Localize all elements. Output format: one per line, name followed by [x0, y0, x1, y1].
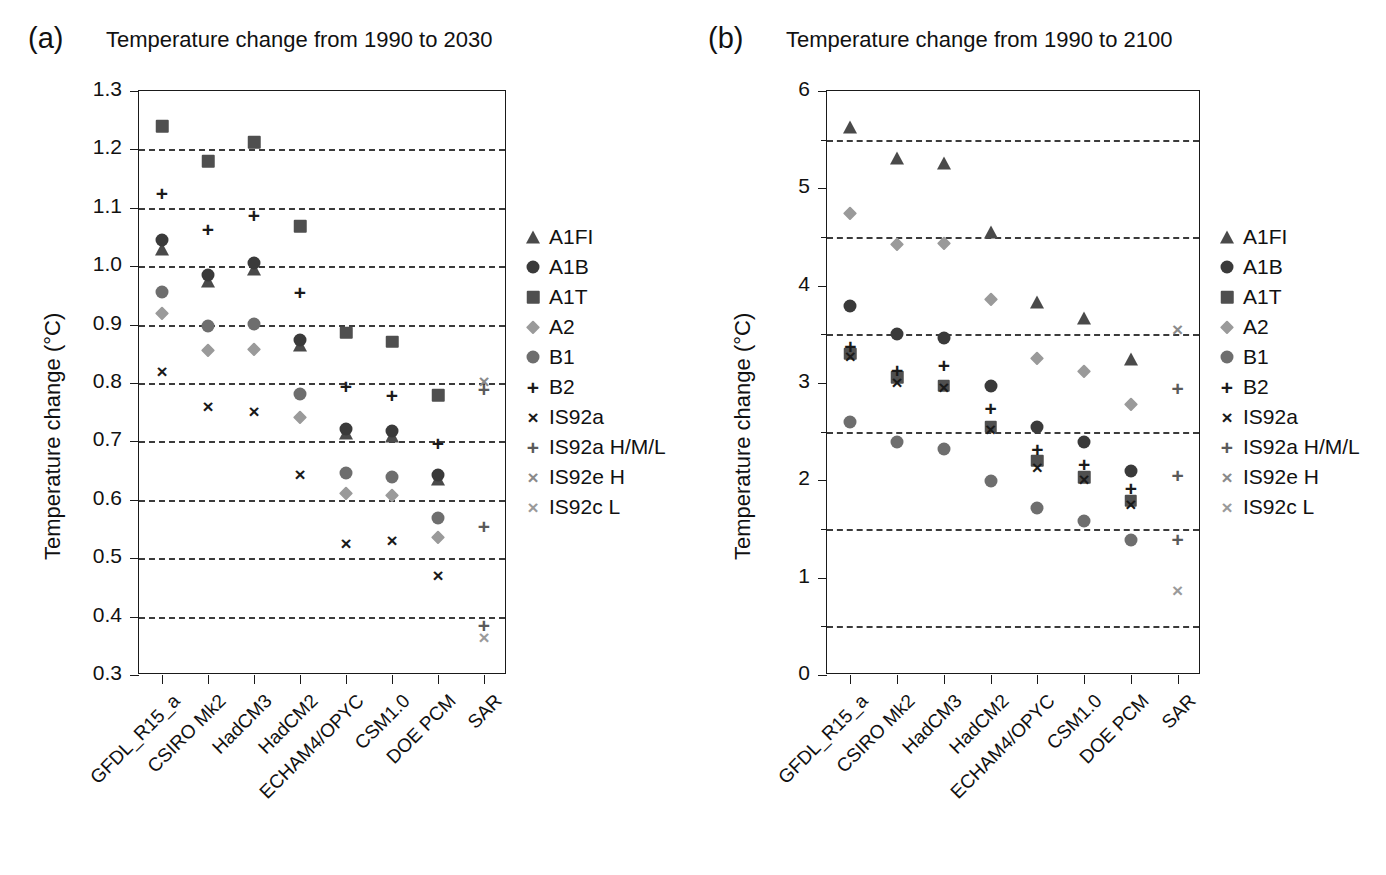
x-axis-tick [1131, 675, 1132, 684]
legend-marker-cross-icon: × [1214, 494, 1240, 520]
marker-square [527, 291, 540, 304]
gridline [139, 383, 505, 385]
marker-diamond [526, 320, 539, 333]
data-point-is92a: × [1121, 494, 1141, 513]
marker-plus: + [523, 437, 543, 458]
y-axis-minor-tick [821, 432, 827, 433]
data-point-a2 [1124, 398, 1137, 411]
legend-marker-circle-icon [1214, 344, 1240, 370]
gridline [827, 140, 1199, 142]
y-axis-tick [818, 578, 827, 579]
data-point-a2 [339, 486, 352, 499]
y-axis-tick [130, 383, 139, 384]
x-axis-tick [392, 675, 393, 684]
y-axis-tick-label: 0.5 [60, 544, 122, 568]
y-axis-tick [818, 188, 827, 189]
data-point-is92c-l: × [1168, 581, 1188, 600]
data-point-a1fi [937, 157, 951, 170]
data-point-a2 [247, 342, 260, 355]
legend-marker-triangle-icon [520, 224, 546, 250]
x-axis-tick [1084, 675, 1085, 684]
data-point-b1 [386, 471, 399, 484]
legend-item-a1b: A1B [520, 252, 666, 282]
y-axis-tick [818, 675, 827, 676]
y-axis-tick-label: 0.4 [60, 603, 122, 627]
gridline [827, 626, 1199, 628]
marker-circle [527, 351, 540, 364]
legend-label: A1T [1243, 285, 1282, 309]
data-point-b1 [891, 436, 904, 449]
y-axis-tick-label: 1.3 [60, 77, 122, 101]
y-axis-tick-label: 0.3 [60, 661, 122, 685]
y-axis-minor-tick [821, 626, 827, 627]
marker-plus: + [523, 377, 543, 398]
gridline [827, 529, 1199, 531]
data-point-is92e-h: × [1168, 320, 1188, 339]
legend-marker-cross-icon: × [1214, 404, 1240, 430]
data-point-b1 [248, 318, 261, 331]
legend-item-is92a: ×IS92a [1214, 402, 1360, 432]
data-point-a1t [386, 335, 399, 348]
data-point-a1b [156, 233, 169, 246]
panel-b-legend: A1FIA1BA1TA2B1+B2×IS92a+IS92a H/M/L×IS92… [1214, 222, 1360, 522]
legend-marker-triangle-icon [1214, 224, 1240, 250]
y-axis-tick [130, 617, 139, 618]
legend-label: IS92a [1243, 405, 1298, 429]
legend-label: B2 [1243, 375, 1269, 399]
legend-marker-plus-icon: + [520, 374, 546, 400]
data-point-is92a: × [428, 566, 448, 585]
data-point-b1 [844, 415, 857, 428]
legend-item-a1b: A1B [1214, 252, 1360, 282]
legend-item-a2: A2 [520, 312, 666, 342]
data-point-a2 [201, 343, 214, 356]
y-axis-tick-label: 0.6 [60, 486, 122, 510]
data-point-b2: + [244, 205, 264, 226]
legend-item-b1: B1 [1214, 342, 1360, 372]
y-axis-tick-label: 1.0 [60, 252, 122, 276]
legend-item-is92e-h: ×IS92e H [1214, 462, 1360, 492]
legend-label: IS92e H [1243, 465, 1319, 489]
x-axis-tick [162, 675, 163, 684]
data-point-a1t [202, 155, 215, 168]
data-point-is92a: × [198, 396, 218, 415]
data-point-b2: + [981, 398, 1001, 419]
legend-label: IS92a [549, 405, 604, 429]
legend-marker-circle-icon [1214, 254, 1240, 280]
data-point-a1b [1031, 420, 1044, 433]
y-axis-tick-label: 0 [748, 661, 810, 685]
legend-label: A2 [549, 315, 575, 339]
y-axis-minor-tick [821, 529, 827, 530]
data-point-b1 [1031, 501, 1044, 514]
panel-b-tag: (b) [708, 22, 743, 55]
data-point-a1b [1078, 436, 1091, 449]
data-point-a1b [294, 334, 307, 347]
panel-a-title: Temperature change from 1990 to 2030 [106, 27, 492, 53]
x-axis-tick [1037, 675, 1038, 684]
y-axis-tick [130, 266, 139, 267]
marker-triangle [526, 231, 540, 244]
y-axis-tick-label: 1.2 [60, 135, 122, 159]
data-point-a1b [1124, 464, 1137, 477]
x-axis-tick [484, 675, 485, 684]
data-point-b2: + [198, 218, 218, 239]
data-point-is92a: × [1027, 457, 1047, 476]
data-point-a1b [340, 422, 353, 435]
data-point-b1 [340, 466, 353, 479]
y-axis-tick-label: 4 [748, 272, 810, 296]
legend-item-is92a: ×IS92a [520, 402, 666, 432]
y-axis-tick-label: 1.1 [60, 194, 122, 218]
legend-label: A1FI [1243, 225, 1287, 249]
marker-cross: × [523, 408, 543, 427]
panel-b-y-axis-label: Temperature change (°C) [730, 313, 756, 560]
y-axis-tick [818, 286, 827, 287]
x-axis-tick [208, 675, 209, 684]
data-point-is92a: × [290, 464, 310, 483]
data-point-is92a: × [1074, 470, 1094, 489]
gridline [827, 432, 1199, 434]
marker-cross: × [1217, 408, 1237, 427]
data-point-is92e-h: × [474, 372, 494, 391]
legend-item-is92c-l: ×IS92c L [520, 492, 666, 522]
y-axis-tick-label: 2 [748, 466, 810, 490]
y-axis-tick [818, 383, 827, 384]
legend-marker-diamond-icon [1214, 314, 1240, 340]
